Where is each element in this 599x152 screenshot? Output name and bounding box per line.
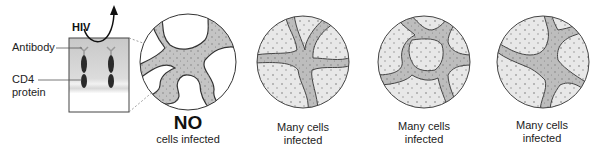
panel-1-headline: NO <box>133 113 243 133</box>
panel-4-cell-circle <box>495 14 591 112</box>
panel-1-caption: cells infected <box>133 133 243 146</box>
panel-3-caption-line1: Many cells <box>369 120 479 133</box>
cd4-label-line1: CD4 <box>12 73 34 86</box>
antibody-label: Antibody <box>12 41 55 54</box>
hiv-label: HIV <box>72 21 90 33</box>
panel-3-cell-circle <box>376 14 472 112</box>
panel-3-caption-line2: infected <box>369 133 479 146</box>
panel-4-caption-line2: infected <box>487 132 597 145</box>
cd4-label-line2: protein <box>12 86 46 99</box>
panel-2-cell-circle <box>255 14 352 112</box>
panel-2-caption-line2: infected <box>248 134 358 147</box>
cell-membrane-box <box>69 38 129 112</box>
panel-2-caption-line1: Many cells <box>248 121 358 134</box>
panel-1-cell-circle <box>136 10 240 115</box>
panel-4-caption-line1: Many cells <box>487 119 597 132</box>
